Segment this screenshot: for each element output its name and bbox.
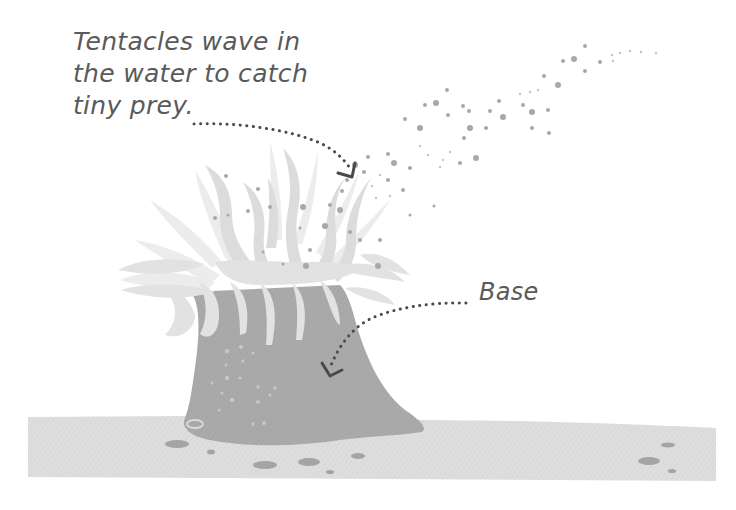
- base-label: Base: [479, 276, 539, 308]
- tentacles-label-line-1: Tentacles wave in: [73, 26, 308, 58]
- sea-anemone-diagram: Tentacles wave in the water to catch tin…: [0, 0, 736, 510]
- tentacles-label-line-3: tiny prey.: [73, 90, 308, 122]
- tentacles-label: Tentacles wave in the water to catch tin…: [73, 26, 308, 122]
- tentacles-label-line-2: the water to catch: [73, 58, 308, 90]
